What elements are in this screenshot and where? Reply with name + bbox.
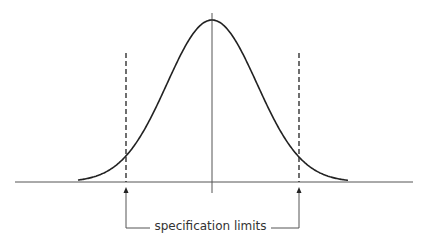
normal-distribution-diagram bbox=[0, 0, 421, 243]
bell-curve bbox=[78, 20, 348, 180]
lower-arrow-icon bbox=[124, 187, 129, 193]
specification-limits-label: specification limits bbox=[0, 219, 421, 233]
upper-arrow-icon bbox=[297, 187, 302, 193]
label-text: specification limits bbox=[150, 219, 270, 233]
